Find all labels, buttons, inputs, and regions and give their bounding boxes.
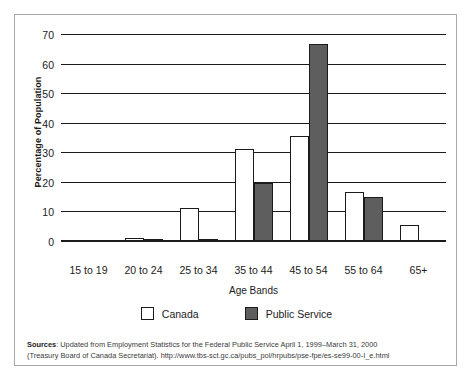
y-tick-label: 60 (42, 59, 54, 71)
x-tick-label: 35 to 44 (226, 264, 281, 276)
y-tick-label: 20 (42, 177, 54, 189)
gridline: 0 (61, 241, 446, 242)
bar-group (281, 34, 336, 241)
bar (309, 44, 328, 241)
legend-item: Canada (141, 307, 199, 320)
bar (290, 136, 309, 241)
x-tick-labels: 15 to 1920 to 2425 to 3435 to 4445 to 54… (61, 264, 446, 276)
bar-group (336, 34, 391, 241)
source-prefix: Sources (27, 340, 56, 349)
source-line-1: Sources: Updated from Employment Statist… (27, 339, 447, 350)
figure-frame: Percentage of Population 706050403020100… (14, 14, 457, 366)
bar (364, 197, 383, 241)
legend-label: Canada (162, 308, 199, 320)
bar (400, 225, 419, 241)
plot-area: 706050403020100 (61, 34, 446, 241)
x-axis-title: Age Bands (61, 285, 446, 296)
y-tick-label: 50 (42, 88, 54, 100)
legend-swatch (245, 307, 258, 320)
legend: CanadaPublic Service (15, 307, 458, 320)
y-tick-label: 70 (42, 29, 54, 41)
x-tick-label: 55 to 64 (336, 264, 391, 276)
bar (254, 183, 273, 241)
y-axis-title: Percentage of Population (33, 47, 43, 217)
legend-swatch (141, 307, 154, 320)
bar-chart: Percentage of Population 706050403020100… (15, 15, 458, 287)
y-tick-label: 30 (42, 147, 54, 159)
bar (180, 208, 199, 241)
x-tick-label: 45 to 54 (281, 264, 336, 276)
x-tick-label: 15 to 19 (61, 264, 116, 276)
y-tick-label: 10 (42, 206, 54, 218)
source-line-1-text: : Updated from Employment Statistics for… (56, 340, 377, 349)
bar-group (226, 34, 281, 241)
y-tick-label: 0 (48, 236, 54, 248)
bar-group (391, 34, 446, 241)
legend-label: Public Service (266, 308, 333, 320)
x-tick-label: 25 to 34 (171, 264, 226, 276)
y-tick-label: 40 (42, 118, 54, 130)
source-line-2: (Treasury Board of Canada Secretariat). … (27, 350, 447, 361)
bar-group (171, 34, 226, 241)
x-tick-label: 65+ (391, 264, 446, 276)
bar-groups (61, 34, 446, 241)
source-note: Sources: Updated from Employment Statist… (27, 339, 447, 362)
x-axis-baseline (61, 240, 446, 241)
legend-item: Public Service (245, 307, 333, 320)
bar-group (61, 34, 116, 241)
bar-group (116, 34, 171, 241)
bar (235, 149, 254, 241)
x-tick-label: 20 to 24 (116, 264, 171, 276)
bar (345, 192, 364, 241)
